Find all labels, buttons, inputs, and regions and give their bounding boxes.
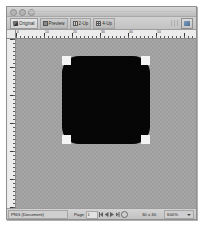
toolbar-separator: [171, 20, 179, 26]
tab-original-label: Original: [19, 19, 35, 28]
horizontal-ruler[interactable]: 0 10 20 30 40 50: [16, 30, 196, 39]
preview-icon: [43, 21, 48, 26]
title-bar: [7, 7, 196, 17]
four-up-icon: [96, 21, 101, 26]
hruler-tick-40: 40: [129, 30, 133, 34]
vertical-ruler[interactable]: [7, 39, 16, 208]
tab-bar-right-group: [171, 18, 196, 29]
zoom-selector[interactable]: 600%: [164, 210, 194, 219]
tab-original[interactable]: Original: [10, 18, 38, 29]
hruler-tick-20: 20: [73, 30, 77, 34]
image-size-indicator: 30 x 30: [134, 210, 164, 219]
two-up-icon: [73, 21, 78, 26]
hruler-tick-0: 0: [17, 30, 19, 34]
close-button[interactable]: [10, 9, 17, 16]
first-page-icon[interactable]: [99, 212, 103, 217]
corner-bottom-left: [62, 135, 71, 144]
hruler-tick-10: 10: [45, 30, 49, 34]
image-size-label: 30 x 30: [142, 210, 156, 219]
last-page-icon[interactable]: [116, 212, 120, 217]
hruler-tick-50: 50: [157, 30, 161, 34]
corner-bottom-right: [141, 135, 150, 144]
stop-icon[interactable]: [121, 211, 128, 218]
tab-4-up-label: 4-Up: [102, 19, 112, 28]
pencil-icon: [13, 20, 19, 26]
page-number-field[interactable]: 1: [86, 211, 98, 219]
hruler-tick-30: 30: [101, 30, 105, 34]
preview-in-browser-icon[interactable]: [181, 18, 193, 29]
ruler-origin-box[interactable]: [7, 30, 16, 39]
corner-top-right: [141, 56, 150, 65]
tab-preview-label: Preview: [49, 19, 65, 28]
imageready-window: Original Preview 2-Up 4-Up 0 10 20 30 40: [6, 6, 197, 220]
status-bar: PNG (Document) Page 1 30 x 30 600%: [7, 208, 196, 220]
black-rounded-square[interactable]: [62, 56, 150, 144]
minimize-button[interactable]: [19, 9, 26, 16]
format-indicator[interactable]: PNG (Document): [8, 210, 68, 219]
view-tab-bar: Original Preview 2-Up 4-Up: [7, 17, 196, 30]
page-label: Page: [74, 210, 84, 219]
zoom-label: 600%: [167, 210, 178, 219]
rounded-square-fill: [62, 56, 150, 144]
work-area: 0 10 20 30 40 50: [7, 30, 196, 208]
corner-top-left: [62, 56, 71, 65]
format-label: PNG (Document): [11, 210, 44, 219]
image-canvas[interactable]: [16, 39, 196, 208]
title-bar-texture: [29, 10, 192, 13]
page-navigator: Page 1: [68, 210, 134, 219]
next-page-icon[interactable]: [110, 212, 114, 217]
tab-2-up-label: 2-Up: [79, 19, 89, 28]
tab-2-up[interactable]: 2-Up: [70, 18, 92, 29]
previous-page-icon[interactable]: [105, 212, 109, 217]
chevron-down-icon[interactable]: [187, 214, 191, 216]
tab-4-up[interactable]: 4-Up: [93, 18, 115, 29]
tab-preview[interactable]: Preview: [40, 18, 68, 29]
